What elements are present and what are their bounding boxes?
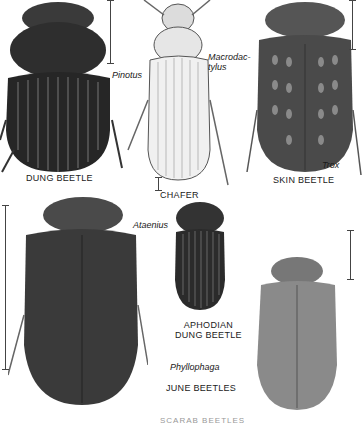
aphodian-dung-beetle-illustration — [165, 200, 235, 315]
cut-off-caption: SCARAB BEETLES — [160, 416, 245, 423]
scale-bar — [352, 0, 353, 50]
label-dung-beetle: DUNG BEETLE — [26, 173, 93, 183]
scale-bar — [350, 230, 351, 280]
label-chafer: CHAFER — [160, 190, 199, 200]
scale-bar — [158, 177, 159, 191]
chafer-illustration — [120, 0, 230, 190]
label-skin-beetle: SKIN BEETLE — [273, 175, 334, 185]
scale-bar — [110, 0, 111, 64]
skin-beetle-illustration — [245, 0, 363, 185]
label-aphodian-dung-beetle: APHODIAN DUNG BEETLE — [175, 320, 242, 340]
genus-trox: Trox — [322, 160, 339, 170]
june-beetle-right-illustration — [245, 255, 350, 415]
genus-phyllophaga: Phyllophaga — [170, 362, 220, 372]
scale-bar — [5, 205, 6, 370]
label-june-beetles: JUNE BEETLES — [166, 383, 236, 393]
genus-ataenius: Ataenius — [133, 220, 168, 230]
june-beetle-left-illustration — [8, 195, 148, 410]
